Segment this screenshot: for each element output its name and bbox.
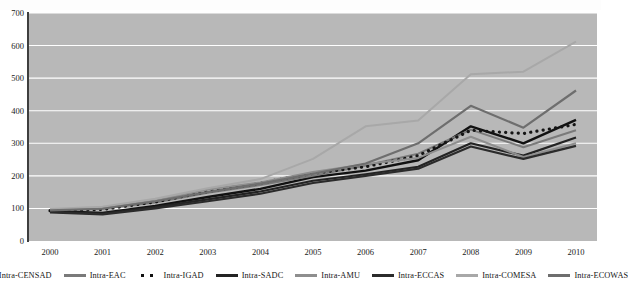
line-swatch-comesa-icon	[456, 274, 478, 276]
line-swatch-eac-icon	[64, 274, 86, 276]
x-tick-label: 2006	[346, 247, 386, 257]
x-tick-label: 2003	[188, 247, 228, 257]
legend-item-label: Intra-AMU	[321, 271, 360, 280]
legend-item-label: Intra-SADC	[242, 271, 284, 280]
line-swatch-amu-icon	[295, 274, 317, 276]
legend-item-intra-censad[interactable]: Intra-CENSAD	[0, 271, 52, 280]
legend-item-intra-comesa[interactable]: Intra-COMESA	[456, 271, 536, 280]
y-tick-label: 400	[0, 106, 24, 116]
x-tick-label: 2007	[398, 247, 438, 257]
legend-item-label: Intra-IGAD	[164, 271, 204, 280]
legend-item-label: Intra-ECOWAS	[574, 271, 628, 280]
y-tick-label: 200	[0, 171, 24, 181]
x-tick-label: 2005	[293, 247, 333, 257]
x-tick-label: 2009	[503, 247, 543, 257]
y-tick-label: 500	[0, 73, 24, 83]
x-tick-label: 2010	[556, 247, 596, 257]
legend-item-label: Intra-EAC	[90, 271, 126, 280]
x-tick-label: 2001	[83, 247, 123, 257]
legend-item-intra-igad[interactable]: Intra-IGAD	[138, 271, 204, 280]
x-tick-label: 2008	[451, 247, 491, 257]
x-tick-label: 2004	[240, 247, 280, 257]
legend-item-intra-eac[interactable]: Intra-EAC	[64, 271, 126, 280]
x-tick-label: 2002	[135, 247, 175, 257]
x-tick-label: 2000	[30, 247, 70, 257]
legend-item-label: Intra-ECCAS	[398, 271, 444, 280]
y-tick-label: 600	[0, 41, 24, 51]
legend-item-label: Intra-COMESA	[482, 271, 536, 280]
y-tick-label: 300	[0, 138, 24, 148]
chart-legend: Intra-CENSADIntra-EACIntra-IGADIntra-SAD…	[0, 264, 601, 287]
line-swatch-igad-icon	[138, 274, 160, 277]
legend-item-intra-sadc[interactable]: Intra-SADC	[216, 271, 284, 280]
legend-item-intra-amu[interactable]: Intra-AMU	[295, 271, 360, 280]
line-swatch-eccas-icon	[372, 274, 394, 277]
y-tick-label: 700	[0, 8, 24, 18]
legend-item-intra-eccas[interactable]: Intra-ECCAS	[372, 271, 444, 280]
line-swatch-ecowas-icon	[548, 274, 570, 277]
y-tick-label: 0	[0, 236, 24, 246]
y-tick-label: 100	[0, 203, 24, 213]
legend-item-label: Intra-CENSAD	[0, 271, 52, 280]
line-swatch-sadc-icon	[216, 274, 238, 277]
legend-item-intra-ecowas[interactable]: Intra-ECOWAS	[548, 271, 628, 280]
